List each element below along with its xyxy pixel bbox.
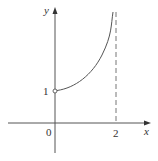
origin-label: 0 bbox=[46, 126, 52, 138]
y-axis-arrow-icon bbox=[53, 7, 58, 14]
function-graph: y x 0 2 1 bbox=[0, 0, 158, 161]
y-axis-label: y bbox=[43, 4, 49, 16]
function-curve bbox=[57, 12, 113, 91]
open-circle-marker bbox=[53, 89, 57, 93]
y-tick-label-1: 1 bbox=[43, 85, 49, 97]
x-axis-label: x bbox=[143, 125, 149, 137]
x-tick-label-2: 2 bbox=[113, 127, 119, 139]
